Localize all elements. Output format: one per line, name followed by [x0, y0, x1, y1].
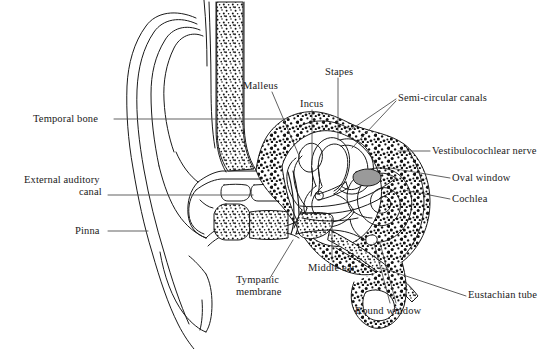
label-middle-ear: Middle ear	[308, 262, 355, 275]
label-round-window: Round window	[355, 305, 421, 318]
label-tympanic-membrane-line2: membrane	[236, 286, 282, 299]
label-malleus: Malleus	[243, 80, 278, 93]
leader-tympanic-membrane	[270, 240, 293, 278]
ear-anatomy-figure: Temporal bone External auditory canal Pi…	[0, 0, 560, 349]
label-temporal-bone: Temporal bone	[33, 113, 98, 126]
diagram-artwork	[108, 0, 466, 349]
label-oval-window: Oval window	[452, 172, 511, 185]
label-tympanic-membrane: Tympanic	[236, 274, 279, 287]
round-window-patch	[366, 235, 377, 245]
label-vestibulocochlear-nerve: Vestibulocochlear nerve	[432, 145, 537, 158]
oval-window-patch	[353, 169, 381, 186]
label-external-auditory-canal: External auditory	[24, 174, 100, 187]
label-stapes: Stapes	[325, 66, 353, 79]
label-external-auditory-canal-line2: canal	[79, 186, 102, 199]
temporal-bone-mass	[256, 112, 430, 275]
label-pinna: Pinna	[75, 225, 100, 238]
label-semi-circular-canals: Semi-circular canals	[398, 92, 487, 105]
label-eustachian-tube: Eustachian tube	[468, 289, 537, 302]
label-cochlea: Cochlea	[452, 193, 487, 206]
label-incus: Incus	[300, 98, 324, 111]
